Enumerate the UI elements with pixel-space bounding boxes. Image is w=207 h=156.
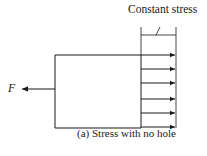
stress-diagram	[0, 0, 207, 156]
stress-arrows	[141, 55, 175, 127]
plate	[55, 55, 141, 128]
